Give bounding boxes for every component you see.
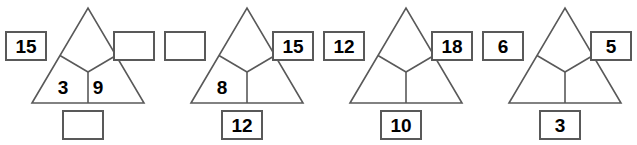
answer-box-bottom[interactable] — [62, 110, 104, 140]
triangle-puzzle-3: 12 18 10 — [318, 0, 478, 145]
answer-box-right[interactable]: 5 — [590, 31, 632, 61]
triangle-puzzle-1: 3 9 15 — [0, 0, 160, 145]
answer-box-left[interactable]: 6 — [482, 31, 524, 61]
answer-box-left[interactable]: 12 — [323, 31, 365, 61]
answer-box-bottom[interactable]: 3 — [539, 110, 581, 140]
answer-box-right[interactable] — [113, 31, 155, 61]
triangle-cell-right-value: 9 — [83, 78, 113, 97]
triangle-cell-left-value: 8 — [207, 78, 237, 97]
answer-box-right[interactable]: 18 — [431, 31, 473, 61]
triangle-cell-left-value: 3 — [48, 78, 78, 97]
triangle-puzzle-worksheet: 3 9 15 8 15 12 12 18 10 — [0, 0, 637, 145]
triangle-puzzle-4: 6 5 3 — [477, 0, 637, 145]
answer-box-left[interactable]: 15 — [5, 31, 47, 61]
answer-box-bottom[interactable]: 10 — [380, 110, 422, 140]
answer-box-right[interactable]: 15 — [272, 31, 314, 61]
answer-box-bottom[interactable]: 12 — [221, 110, 263, 140]
triangle-puzzle-2: 8 15 12 — [159, 0, 319, 145]
answer-box-left[interactable] — [164, 31, 206, 61]
